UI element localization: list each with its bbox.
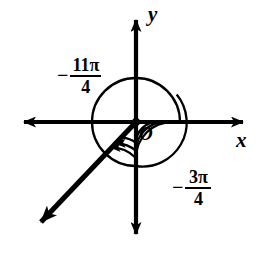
angle-label-inner-denominator: 4 — [194, 189, 203, 208]
angle-label-inner: − 3π 4 — [172, 168, 211, 208]
angle-label-outer-sign: − — [57, 65, 68, 85]
x-axis-label: x — [236, 130, 247, 151]
angle-label-inner-numerator: 3π — [187, 168, 210, 187]
angle-label-inner-sign: − — [172, 177, 183, 197]
y-axis-label: y — [148, 4, 157, 25]
angle-label-outer-fraction: 11π 4 — [70, 56, 101, 96]
angle-label-outer: − 11π 4 — [57, 56, 101, 96]
coterminal-angles-figure: y x O − 11π 4 − 3π 4 — [0, 0, 267, 254]
figure-canvas — [0, 0, 267, 254]
terminal-ray-line — [41, 122, 136, 222]
angle-label-outer-denominator: 4 — [81, 77, 90, 96]
terminal-ray — [41, 122, 136, 222]
angle-label-outer-numerator: 11π — [70, 56, 101, 75]
angle-label-inner-fraction: 3π 4 — [185, 168, 211, 208]
origin-label: O — [139, 124, 153, 143]
